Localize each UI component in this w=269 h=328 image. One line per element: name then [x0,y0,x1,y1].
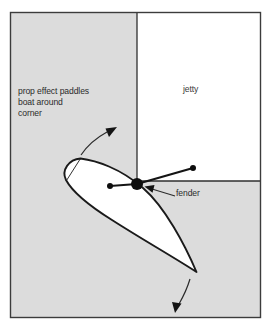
mooring-point-dot [190,165,196,171]
jetty-area [137,13,260,181]
diagram-canvas [0,0,269,328]
label-fender: fender [176,188,200,199]
boat-pivot-dot [107,183,113,189]
boat-handling-diagram: prop effect paddles boat around corner j… [0,0,269,328]
annotation-prop-effect: prop effect paddles boat around corner [18,86,89,119]
label-jetty: jetty [183,84,198,95]
fender-dot [131,178,143,190]
